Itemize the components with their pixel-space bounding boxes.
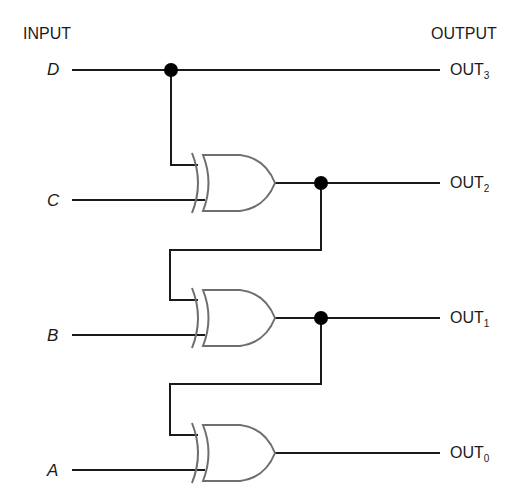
junction-dot-out2: [314, 176, 328, 190]
output-label-out3: OUT3: [450, 62, 489, 78]
junction-dot-out1: [314, 311, 328, 325]
output-header: OUTPUT: [431, 26, 497, 42]
output-label-out0: OUT0: [450, 445, 489, 461]
xor-gate-1: [192, 153, 275, 213]
xor-gate-2: [192, 288, 275, 348]
input-label-b: B: [47, 327, 58, 344]
input-header: INPUT: [23, 26, 71, 42]
input-label-c: C: [47, 192, 59, 209]
output-label-out2: OUT2: [450, 175, 489, 191]
wire-d-to-gate1: [171, 70, 198, 165]
output-label-out1: OUT1: [450, 310, 489, 326]
input-label-d: D: [47, 61, 59, 78]
input-label-a: A: [47, 462, 58, 479]
junction-dot-d: [164, 63, 178, 77]
xor-gate-3: [192, 423, 275, 483]
